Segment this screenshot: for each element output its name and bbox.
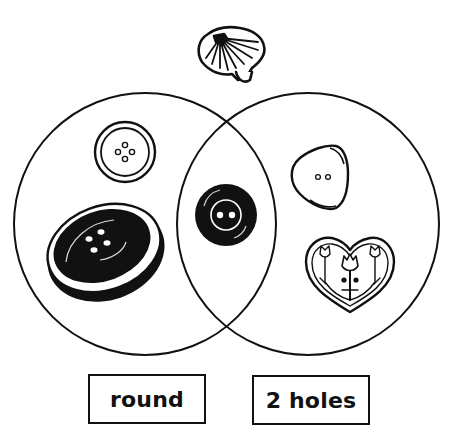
black-round-2-hole-button-icon [195,184,257,246]
white-round-4-hole-button-icon [95,122,155,182]
shell-button-icon [199,27,265,81]
heart-flower-button-icon [306,238,394,312]
label-2-holes: 2 holes [252,375,370,425]
label-round: round [88,374,206,424]
triangular-2-hole-button-icon [292,146,348,209]
large-black-oval-button-icon [34,189,178,318]
venn-diagram [0,0,453,439]
